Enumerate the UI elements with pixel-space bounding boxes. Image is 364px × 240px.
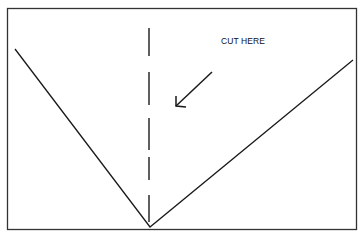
cut-here-label: CUT HERE — [221, 36, 265, 46]
arrow-icon — [176, 72, 212, 107]
diagram-canvas — [0, 0, 364, 240]
v-shape-line — [15, 49, 353, 227]
border-frame — [8, 9, 357, 230]
